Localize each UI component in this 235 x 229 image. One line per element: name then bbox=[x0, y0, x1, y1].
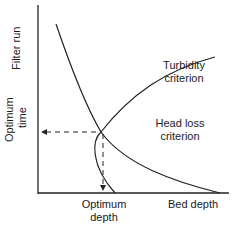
filter-depth-diagram: Filter run Optimum time Turbidity criter… bbox=[0, 0, 235, 229]
headloss-label-2: criterion bbox=[145, 130, 215, 142]
turbidity-label-1: Turbidity bbox=[152, 59, 216, 71]
headloss-label-1: Head loss bbox=[145, 117, 215, 129]
diagram-plot bbox=[0, 0, 235, 229]
optimum-time-label-1: Optimum bbox=[3, 97, 15, 142]
x-axis-label: Bed depth bbox=[158, 198, 228, 210]
y-axis-label: Filter run bbox=[10, 27, 22, 70]
turbidity-label-2: criterion bbox=[152, 72, 216, 84]
optimum-depth-label-2: depth bbox=[72, 211, 136, 223]
optimum-depth-label-1: Optimum bbox=[72, 198, 136, 210]
arrow-left-icon bbox=[41, 129, 47, 135]
optimum-time-label-2: time bbox=[16, 107, 28, 128]
head-loss-curve bbox=[56, 24, 220, 193]
arrow-down-icon bbox=[100, 185, 106, 191]
